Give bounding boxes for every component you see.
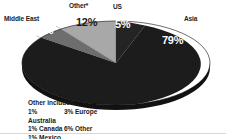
slice-value-us: 5% [115, 19, 130, 30]
footnote-row: 1%Australia 3%Europe [28, 108, 108, 125]
footnote-name: Europe [75, 108, 97, 115]
footnote-title: Other includes: [28, 99, 108, 108]
footnote-entry: 3%Europe [64, 108, 108, 125]
slice-label-asia: Asia [184, 16, 197, 23]
slice-value-middle-east: 9% [38, 25, 53, 36]
footnote-row: 1%Mexico [28, 134, 108, 139]
footnote-percent: 3% [64, 108, 75, 117]
footnote-entry: 1%Mexico [28, 134, 64, 139]
footnote-name: Mexico [39, 134, 61, 139]
slice-label-middle-east: Middle East [4, 16, 39, 23]
footnote-percent: 1% [28, 134, 39, 139]
footnote-name: Canada [39, 125, 62, 132]
slice-value-asia: 79% [162, 35, 183, 46]
bottom-divider [0, 133, 226, 134]
footnote-entry [64, 134, 108, 139]
slice-value-other: 12% [76, 17, 97, 28]
slice-label-us: US [113, 4, 122, 11]
slice-label-other: Other* [69, 3, 88, 10]
footnote-percent: 1% [28, 108, 39, 117]
footnote-entry: 1%Australia [28, 108, 64, 125]
footnote-name: Australia [28, 117, 56, 124]
footnote-name: Other [75, 125, 92, 132]
pie-chart: Middle East Other* US Asia 9% 12% 5% 79%… [0, 0, 226, 139]
